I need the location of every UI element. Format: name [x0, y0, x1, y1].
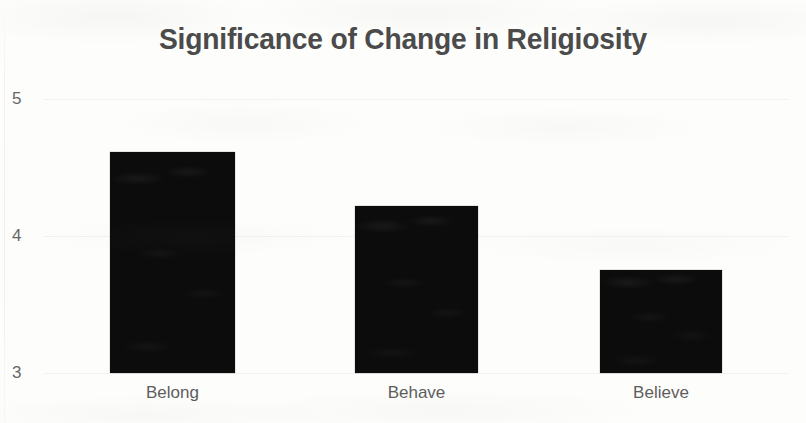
chart-scan-canvas: Significance of Change in Religiosity 5 … [0, 0, 806, 423]
x-axis-label-belong: Belong [110, 383, 235, 403]
gridline-y-5 [44, 99, 789, 100]
bar-believe [600, 270, 722, 373]
bar-behave [355, 206, 478, 373]
chart-title: Significance of Change in Religiosity [24, 22, 782, 56]
gridline-y-3 [44, 373, 789, 374]
y-axis-tick-4: 4 [12, 226, 38, 246]
y-axis-tick-5: 5 [12, 89, 38, 109]
x-axis-label-believe: Believe [600, 383, 722, 403]
bar-chart-plot-area: 5 4 3 Belong Behave Believe [0, 0, 806, 423]
x-axis-label-behave: Behave [355, 383, 478, 403]
y-axis-tick-3: 3 [12, 363, 38, 383]
bar-belong [110, 152, 235, 373]
